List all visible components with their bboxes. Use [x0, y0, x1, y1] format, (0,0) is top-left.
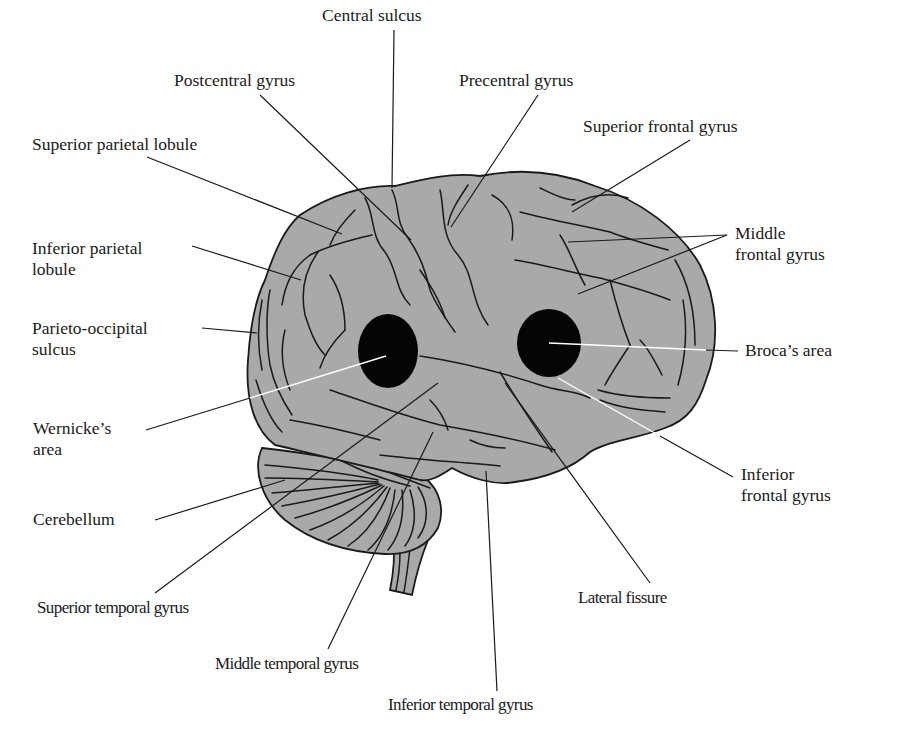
label-cerebellum: Cerebellum	[33, 509, 115, 530]
label-inferior-frontal-gyrus: Inferior frontal gyrus	[741, 464, 831, 506]
leader-parieto-occipital-sulcus	[202, 328, 257, 333]
label-brocas-area: Broca’s area	[745, 340, 832, 361]
label-parieto-occipital-sulcus: Parieto-occipital sulcus	[32, 318, 148, 360]
label-inferior-parietal-lobule: Inferior parietal lobule	[32, 238, 142, 280]
label-precentral-gyrus: Precentral gyrus	[459, 70, 573, 91]
label-inferior-temporal-gyrus: Inferior temporal gyrus	[388, 694, 533, 715]
brain-diagram: Central sulcus Postcentral gyrus Precent…	[0, 0, 899, 745]
leader-central-sulcus	[392, 30, 394, 188]
leader-cerebellum	[155, 480, 285, 520]
label-middle-temporal-gyrus: Middle temporal gyrus	[215, 653, 358, 674]
leader-inferior-temporal-gyrus	[486, 471, 497, 691]
label-wernickes-area: Wernicke’s area	[33, 418, 111, 460]
label-middle-frontal-gyrus: Middle frontal gyrus	[735, 223, 825, 265]
leader-wernickes-area-outer	[146, 398, 250, 430]
leader-inferior-frontal-gyrus-outer	[660, 436, 733, 477]
cerebrum-shape	[247, 172, 715, 483]
label-superior-temporal-gyrus: Superior temporal gyrus	[37, 597, 188, 618]
leader-superior-parietal-lobule	[147, 157, 342, 234]
label-superior-parietal-lobule: Superior parietal lobule	[32, 134, 197, 155]
label-postcentral-gyrus: Postcentral gyrus	[174, 70, 295, 91]
label-central-sulcus: Central sulcus	[322, 5, 422, 26]
label-lateral-fissure: Lateral fissure	[578, 587, 667, 608]
wernickes-area-region	[358, 314, 418, 388]
label-superior-frontal-gyrus: Superior frontal gyrus	[583, 116, 738, 137]
brain-illustration	[0, 0, 899, 745]
